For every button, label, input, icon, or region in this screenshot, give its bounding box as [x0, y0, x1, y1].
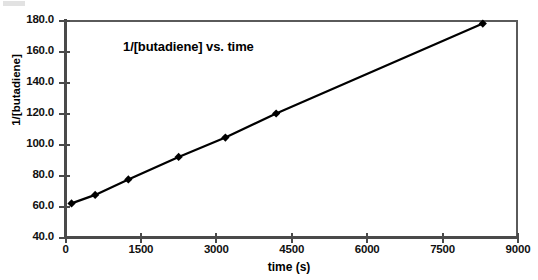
series-markers: [67, 20, 486, 208]
data-point-marker: [175, 153, 183, 161]
data-point-marker: [124, 175, 132, 183]
data-series-layer: [0, 0, 538, 280]
data-point-marker: [91, 191, 99, 199]
chart-container: 40.060.080.0100.0120.0140.0160.0180.0 01…: [0, 0, 538, 280]
data-point-marker: [221, 133, 229, 141]
data-point-marker: [479, 20, 487, 28]
data-point-marker: [272, 109, 280, 117]
data-point-marker: [67, 199, 75, 207]
